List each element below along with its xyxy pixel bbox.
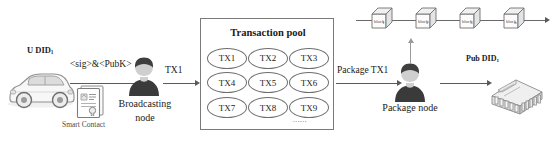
broadcasting-node-label-line2: node bbox=[110, 113, 180, 123]
transaction-pool-box: Transaction pool TX1 TX2 TX3 TX4 TX5 TX6… bbox=[200, 18, 334, 130]
arrow-package-label: Package TX1 bbox=[337, 66, 388, 76]
arrow-package-line bbox=[336, 83, 398, 84]
transaction-pool-title: Transaction pool bbox=[201, 28, 335, 39]
transaction-cell: TX1 bbox=[207, 47, 247, 70]
blockchain-block[interactable]: block 3 bbox=[458, 5, 484, 35]
arrow-to-blockchain-head bbox=[408, 38, 414, 43]
package-node-avatar bbox=[393, 62, 427, 106]
transaction-cell: TX6 bbox=[289, 72, 329, 95]
transaction-cell: TX2 bbox=[248, 47, 288, 70]
broadcasting-node-avatar bbox=[127, 56, 161, 100]
transaction-item[interactable]: TX4 bbox=[207, 72, 247, 93]
blockchain-arrow-head bbox=[545, 17, 550, 23]
arrow-tx1-line bbox=[163, 83, 196, 84]
public-did-label-sub: 1 bbox=[496, 58, 498, 63]
blockchain-block[interactable]: block 2 bbox=[414, 5, 440, 35]
diagram-canvas: U DID1 <sig>&<PubK> Smart Contact Br bbox=[0, 0, 558, 141]
transaction-list: TX1 TX2 TX3 TX4 TX5 TX6 TX7 TX8 bbox=[207, 47, 329, 119]
package-node-label: Package node bbox=[372, 103, 448, 113]
user-did-label-text: U DID bbox=[27, 45, 51, 55]
transaction-item[interactable]: TX1 bbox=[207, 48, 247, 69]
transaction-cell: TX7 bbox=[207, 96, 247, 119]
transaction-cell: TX8 bbox=[248, 96, 288, 119]
transaction-pool-ellipsis: ...... bbox=[293, 117, 307, 124]
transaction-item[interactable]: TX2 bbox=[248, 48, 288, 69]
arrow-to-blockchain-line bbox=[410, 42, 411, 64]
arrow-to-public-entity-line bbox=[440, 83, 488, 84]
public-did-label: Pub DID1 bbox=[466, 55, 499, 64]
broadcasting-node-label-line1: Broadcasting bbox=[110, 99, 180, 109]
transaction-item[interactable]: TX9 bbox=[289, 97, 329, 118]
transaction-cell: TX3 bbox=[289, 47, 329, 70]
arrow-tx1-label: TX1 bbox=[165, 66, 182, 76]
transaction-item[interactable]: TX6 bbox=[289, 72, 329, 93]
transaction-item[interactable]: TX8 bbox=[248, 97, 288, 118]
user-did-label: U DID1 bbox=[27, 46, 54, 56]
blockchain-block[interactable]: block 1 bbox=[370, 5, 396, 35]
transaction-item[interactable]: TX7 bbox=[207, 97, 247, 118]
transaction-item[interactable]: TX3 bbox=[289, 48, 329, 69]
institution-building-icon bbox=[486, 72, 548, 124]
transaction-item[interactable]: TX5 bbox=[248, 72, 288, 93]
transaction-cell: TX4 bbox=[207, 72, 247, 95]
public-did-label-text: Pub DID bbox=[466, 54, 496, 63]
smart-contract-label: Smart Contact bbox=[62, 121, 105, 129]
car-icon bbox=[4, 66, 76, 114]
transaction-cell: TX5 bbox=[248, 72, 288, 95]
user-did-label-sub: 1 bbox=[51, 49, 54, 55]
signature-label: <sig>&<PubK> bbox=[70, 60, 132, 70]
contract-document-icon bbox=[73, 84, 107, 122]
blockchain-block[interactable]: block n bbox=[502, 5, 528, 35]
